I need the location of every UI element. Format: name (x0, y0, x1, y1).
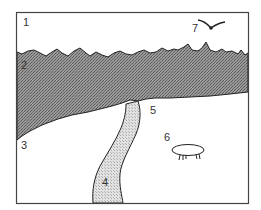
label-1: 1 (23, 17, 29, 28)
creature-icon (172, 145, 204, 161)
bird-icon (198, 20, 225, 30)
diagram-canvas (0, 0, 261, 210)
label-3: 3 (21, 140, 27, 151)
label-7: 7 (192, 23, 198, 34)
landscape-diagram: 1 2 3 4 5 6 7 (0, 0, 261, 210)
label-2: 2 (21, 60, 27, 71)
path-region (93, 101, 140, 203)
label-5: 5 (150, 105, 156, 116)
label-4: 4 (102, 177, 108, 188)
label-6: 6 (164, 132, 170, 143)
